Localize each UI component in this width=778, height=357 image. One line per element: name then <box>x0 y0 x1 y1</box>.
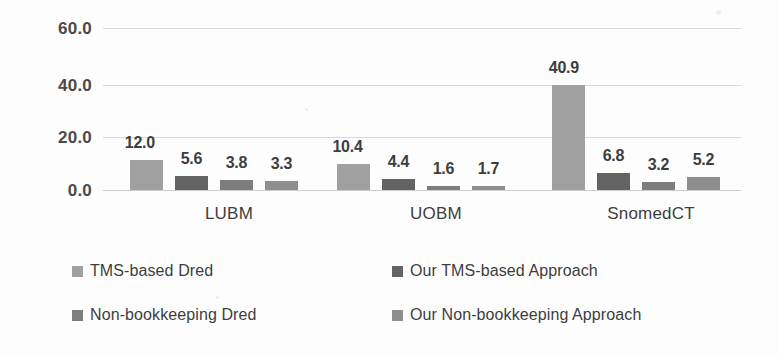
bar-wrapper: 4.4 <box>382 40 415 190</box>
axis-baseline <box>103 190 741 191</box>
bar-tms-based-dred[interactable] <box>337 164 370 190</box>
gridline-60 <box>103 28 741 29</box>
bar-wrapper: 1.7 <box>472 40 505 190</box>
bar-set: 40.9 6.8 3.2 5.2 <box>552 40 720 190</box>
square-swatch-icon <box>392 266 403 277</box>
bar-wrapper: 1.6 <box>427 40 460 190</box>
bar-value-label: 10.4 <box>332 138 362 156</box>
bar-wrapper: 3.8 <box>220 40 253 190</box>
category-label-lubm: LUBM <box>130 204 328 224</box>
bar-value-label: 1.7 <box>478 160 500 178</box>
bar-wrapper: 10.4 <box>337 40 370 190</box>
bar-wrapper: 5.6 <box>175 40 208 190</box>
plot-area: 60.0 40.0 20.0 0.0 12.0 5.6 3.8 3. <box>0 0 778 230</box>
square-swatch-icon <box>392 310 403 321</box>
bar-wrapper: 40.9 <box>552 40 585 190</box>
bar-value-label: 3.3 <box>271 155 293 173</box>
bar-wrapper: 6.8 <box>597 40 630 190</box>
bar-group-snomedct: 40.9 6.8 3.2 5.2 SnomedCT <box>552 40 750 190</box>
bar-our-tms-based-approach[interactable] <box>597 173 630 190</box>
bar-our-tms-based-approach[interactable] <box>175 176 208 190</box>
bar-set: 10.4 4.4 1.6 1.7 <box>337 40 505 190</box>
scan-speckle <box>216 296 219 299</box>
scan-speckle <box>305 108 308 111</box>
bar-tms-based-dred[interactable] <box>130 160 163 190</box>
bar-value-label: 6.8 <box>603 147 625 165</box>
legend-label: Our Non-bookkeeping Approach <box>410 306 641 324</box>
bar-wrapper: 3.3 <box>265 40 298 190</box>
bar-value-label: 5.6 <box>181 150 203 168</box>
bar-non-bookkeeping-dred[interactable] <box>427 186 460 190</box>
chart-legend: TMS-based Dred Our TMS-based Approach No… <box>72 262 732 324</box>
bar-group-uobm: 10.4 4.4 1.6 1.7 UOBM <box>337 40 535 190</box>
bar-our-non-bookkeeping-approach[interactable] <box>687 177 720 190</box>
bar-non-bookkeeping-dred[interactable] <box>220 180 253 190</box>
bar-our-tms-based-approach[interactable] <box>382 179 415 190</box>
y-tick-label: 60.0 <box>18 19 92 39</box>
legend-item-our-tms-based-approach[interactable]: Our TMS-based Approach <box>392 262 732 280</box>
legend-label: TMS-based Dred <box>90 262 213 280</box>
legend-label: Our TMS-based Approach <box>410 262 598 280</box>
category-label-uobm: UOBM <box>337 204 535 224</box>
bar-our-non-bookkeeping-approach[interactable] <box>265 181 298 190</box>
bar-value-label: 12.0 <box>125 134 155 152</box>
legend-item-tms-based-dred[interactable]: TMS-based Dred <box>72 262 392 280</box>
legend-item-non-bookkeeping-dred[interactable]: Non-bookkeeping Dred <box>72 306 392 324</box>
bar-value-label: 3.8 <box>226 154 248 172</box>
square-swatch-icon <box>72 266 83 277</box>
bar-wrapper: 12.0 <box>130 40 163 190</box>
chart-figure: 60.0 40.0 20.0 0.0 12.0 5.6 3.8 3. <box>0 0 778 357</box>
y-tick-label: 40.0 <box>18 76 92 96</box>
legend-label: Non-bookkeeping Dred <box>90 306 257 324</box>
bar-non-bookkeeping-dred[interactable] <box>642 182 675 190</box>
scan-speckle <box>716 10 721 15</box>
bar-value-label: 5.2 <box>693 151 715 169</box>
bar-value-label: 40.9 <box>549 59 579 77</box>
bar-group-lubm: 12.0 5.6 3.8 3.3 LUBM <box>130 40 328 190</box>
bar-our-non-bookkeeping-approach[interactable] <box>472 186 505 190</box>
legend-item-our-non-bookkeeping-approach[interactable]: Our Non-bookkeeping Approach <box>392 306 732 324</box>
bar-set: 12.0 5.6 3.8 3.3 <box>130 40 298 190</box>
square-swatch-icon <box>72 310 83 321</box>
bar-tms-based-dred[interactable] <box>552 85 585 190</box>
y-tick-label: 0.0 <box>18 181 92 201</box>
category-label-snomedct: SnomedCT <box>552 204 750 224</box>
bar-value-label: 1.6 <box>433 160 455 178</box>
bar-wrapper: 5.2 <box>687 40 720 190</box>
y-tick-label: 20.0 <box>18 128 92 148</box>
bar-wrapper: 3.2 <box>642 40 675 190</box>
bar-value-label: 4.4 <box>388 153 410 171</box>
bar-value-label: 3.2 <box>648 156 670 174</box>
